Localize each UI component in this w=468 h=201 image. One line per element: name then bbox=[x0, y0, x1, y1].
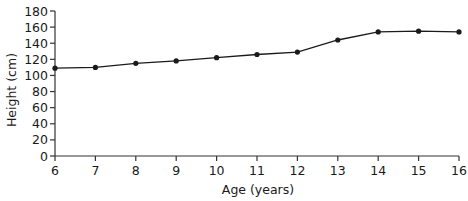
y-tick-label: 140 bbox=[24, 36, 48, 51]
y-tick-label: 60 bbox=[32, 100, 48, 115]
data-series bbox=[52, 29, 461, 71]
chart-container: 020406080100120140160180 678910111213141… bbox=[0, 0, 468, 201]
data-point-marker bbox=[52, 66, 57, 71]
data-point-marker bbox=[254, 52, 259, 57]
x-tick-label: 6 bbox=[51, 163, 59, 178]
data-point-marker bbox=[295, 49, 300, 54]
data-point-marker bbox=[335, 37, 340, 42]
y-tick-label: 20 bbox=[32, 132, 48, 147]
x-tick-label: 9 bbox=[172, 163, 180, 178]
data-point-marker bbox=[376, 29, 381, 34]
x-tick-label: 12 bbox=[289, 163, 305, 178]
x-tick-label: 15 bbox=[411, 163, 427, 178]
data-point-marker bbox=[456, 29, 461, 34]
data-point-marker bbox=[133, 61, 138, 66]
x-axis-label: Age (years) bbox=[222, 182, 294, 197]
x-tick-label: 16 bbox=[451, 163, 467, 178]
y-tick-label: 180 bbox=[24, 4, 48, 19]
data-point-marker bbox=[416, 29, 421, 34]
data-point-marker bbox=[214, 55, 219, 60]
x-tick-label: 14 bbox=[370, 163, 386, 178]
y-tick-label: 100 bbox=[24, 68, 48, 83]
y-tick-label: 80 bbox=[32, 84, 48, 99]
y-tick-label: 120 bbox=[24, 52, 48, 67]
x-axis: 678910111213141516 bbox=[51, 156, 467, 178]
y-tick-label: 160 bbox=[24, 20, 48, 35]
x-tick-label: 7 bbox=[91, 163, 99, 178]
x-tick-label: 13 bbox=[330, 163, 346, 178]
y-axis-label: Height (cm) bbox=[4, 53, 19, 127]
series-line bbox=[55, 31, 459, 68]
data-point-marker bbox=[174, 58, 179, 63]
x-tick-label: 8 bbox=[132, 163, 140, 178]
x-tick-label: 11 bbox=[249, 163, 265, 178]
data-point-marker bbox=[93, 65, 98, 70]
y-axis: 020406080100120140160180 bbox=[24, 4, 55, 164]
height-by-age-line-chart: 020406080100120140160180 678910111213141… bbox=[0, 0, 468, 201]
y-tick-label: 0 bbox=[40, 149, 48, 164]
x-tick-label: 10 bbox=[209, 163, 225, 178]
y-tick-label: 40 bbox=[32, 116, 48, 131]
